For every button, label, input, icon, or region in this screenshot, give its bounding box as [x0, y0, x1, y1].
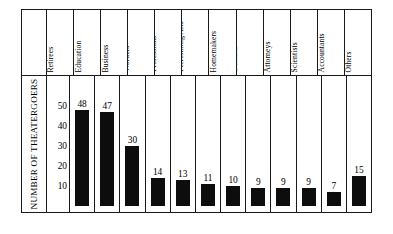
category-header-cell: Homemakers	[209, 10, 236, 75]
category-label-line: Scientists	[291, 42, 299, 72]
bar-value-label: 10	[228, 175, 237, 185]
category-header-cell: Education	[74, 10, 101, 75]
plot-band: NUMBER OF THEATERGOERS 1020304050 484730…	[22, 76, 371, 212]
category-label: HelpingProfessions	[155, 36, 159, 72]
bar-column: 47	[95, 76, 120, 212]
bar-column: 30	[120, 76, 145, 212]
bar	[125, 146, 139, 206]
bar	[176, 180, 190, 206]
category-label: Education	[74, 40, 82, 72]
category-label: Others	[345, 51, 353, 72]
bar-value-label: 15	[354, 165, 363, 175]
category-label-line: Others	[345, 51, 353, 72]
bar-value-label: 9	[256, 177, 261, 187]
bar	[251, 188, 265, 206]
category-label: Fine andPerforming Arts	[182, 21, 186, 72]
plot-area: 48473014131110999715	[69, 76, 371, 212]
bar-value-label: 14	[153, 167, 162, 177]
bar	[201, 184, 215, 206]
bar-column: 15	[347, 76, 371, 212]
category-header-cells: RetireesEducationBusinessOfficeWorkersHe…	[47, 10, 371, 75]
y-axis-tick-label: 40	[58, 121, 67, 131]
category-label: Business	[101, 44, 109, 72]
header-corner-cell	[22, 10, 47, 75]
category-label-line: Professions	[155, 36, 159, 72]
category-header-cell: OfficeWorkers	[128, 10, 155, 75]
category-label-line: Homemakers	[210, 31, 218, 73]
category-label-line: Accountants	[318, 33, 326, 72]
y-axis-title-cell: NUMBER OF THEATERGOERS	[22, 76, 47, 212]
bar	[327, 192, 341, 206]
category-label-line: Dentists	[237, 45, 241, 72]
bar-column: 14	[146, 76, 171, 212]
category-header-band: RetireesEducationBusinessOfficeWorkersHe…	[22, 10, 371, 76]
bar-value-label: 9	[281, 177, 286, 187]
bar-column: 13	[171, 76, 196, 212]
category-label: Attorneys	[264, 41, 272, 72]
bar-value-label: 13	[178, 169, 187, 179]
bar-value-label: 9	[306, 177, 311, 187]
bar-column: 9	[246, 76, 271, 212]
category-label-line: Workers	[128, 46, 132, 72]
bar-value-label: 47	[103, 101, 112, 111]
bar-column: 48	[69, 76, 95, 212]
bar	[100, 112, 114, 206]
category-label-line: Education	[74, 40, 82, 72]
y-axis-tick-label: 50	[58, 101, 67, 111]
category-label: Doctors/Dentists	[237, 45, 241, 72]
bar	[226, 186, 240, 206]
bar-value-label: 30	[128, 135, 137, 145]
bar	[276, 188, 290, 206]
category-label: Scientists	[291, 42, 299, 72]
category-label: Retirees	[47, 46, 55, 72]
category-header-cell: Business	[101, 10, 128, 75]
category-label-line: Business	[101, 44, 109, 72]
bar	[352, 176, 366, 206]
bar-column: 11	[196, 76, 221, 212]
category-label: OfficeWorkers	[128, 46, 132, 72]
category-label: Homemakers	[210, 31, 218, 73]
category-label: Accountants	[318, 33, 326, 72]
bar-column: 9	[271, 76, 296, 212]
bar-chart-figure: RetireesEducationBusinessOfficeWorkersHe…	[21, 9, 372, 213]
bar-value-label: 11	[203, 173, 212, 183]
y-axis-tick-label: 10	[58, 181, 67, 191]
category-label-line: Performing Arts	[182, 21, 186, 72]
category-header-cell: HelpingProfessions	[155, 10, 182, 75]
y-axis-tick-label: 20	[58, 161, 67, 171]
category-header-cell: Scientists	[291, 10, 318, 75]
bar-value-label: 48	[77, 99, 86, 109]
category-header-cell: Retirees	[47, 10, 74, 75]
bar-value-label: 7	[331, 181, 336, 191]
bar	[75, 110, 89, 206]
category-header-cell: Doctors/Dentists	[237, 10, 264, 75]
bar-column: 7	[322, 76, 347, 212]
y-axis-tick-label: 30	[58, 141, 67, 151]
category-label-line: Attorneys	[264, 41, 272, 72]
bar-column: 9	[297, 76, 322, 212]
category-header-cell: Fine andPerforming Arts	[182, 10, 209, 75]
category-header-cell: Accountants	[318, 10, 345, 75]
category-label-line: Retirees	[47, 46, 55, 72]
category-header-cell: Attorneys	[264, 10, 291, 75]
bar	[151, 178, 165, 206]
bar	[302, 188, 316, 206]
category-header-cell: Others	[345, 10, 371, 75]
y-axis-tick-labels: 1020304050	[47, 76, 69, 212]
bar-column: 10	[221, 76, 246, 212]
y-axis-title: NUMBER OF THEATERGOERS	[29, 79, 39, 210]
